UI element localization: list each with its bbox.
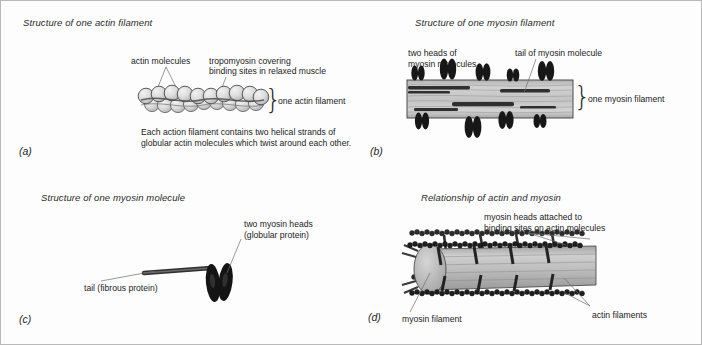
panel-d-actin-myosin-relationship: Relationship of actin and myosin (d) myo… bbox=[352, 173, 702, 345]
panel-a-actin-filament: Structure of one actin filament (a) acti… bbox=[1, 1, 352, 173]
myosin-filament-artwork bbox=[352, 1, 702, 173]
myosin-head-pair bbox=[204, 262, 235, 302]
panel-b-myosin-filament: Structure of one myosin filament (b) two… bbox=[352, 1, 702, 173]
actin-filament-front-bottom bbox=[410, 289, 585, 296]
myosin-molecule-artwork bbox=[1, 173, 352, 345]
myosin-tail bbox=[144, 268, 211, 273]
panel-c-myosin-molecule: Structure of one myosin molecule (c) two… bbox=[1, 173, 352, 345]
myosin-filament-cylinder bbox=[402, 244, 596, 294]
actin-filament-artwork bbox=[1, 1, 352, 173]
actin-myosin-relationship-artwork bbox=[352, 173, 702, 345]
myosin-head-pairs-top bbox=[411, 59, 554, 82]
muscle-filament-figure: Structure of one actin filament (a) acti… bbox=[0, 0, 702, 345]
actin-filament-back-top bbox=[410, 229, 585, 236]
